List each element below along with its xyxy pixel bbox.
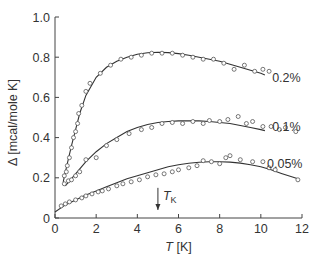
data-point	[77, 112, 81, 116]
data-point	[98, 71, 102, 75]
y-tick-label: 1.0	[33, 11, 50, 25]
tk-subscript: K	[171, 195, 177, 205]
data-point	[139, 128, 143, 132]
data-point	[127, 132, 131, 136]
data-point	[72, 136, 76, 140]
data-point	[251, 160, 255, 164]
series-label: 0.05%	[267, 157, 302, 171]
data-point	[146, 175, 150, 179]
data-point	[267, 69, 271, 73]
fit-curve-2	[65, 121, 265, 186]
chart: 00.20.40.60.81.0024681012T [K]Δ [mcal/mo…	[0, 0, 322, 259]
data-point	[170, 51, 174, 55]
data-point	[150, 126, 154, 130]
data-point	[80, 103, 84, 107]
data-point	[70, 178, 74, 182]
data-point	[107, 187, 111, 191]
data-point	[218, 162, 222, 166]
data-point	[160, 51, 164, 55]
data-point	[88, 81, 92, 85]
y-tick-label: 0	[43, 212, 50, 226]
data-point	[195, 164, 199, 168]
data-point	[64, 170, 68, 174]
data-point	[218, 120, 222, 124]
data-point	[170, 121, 174, 125]
data-point	[160, 122, 164, 126]
data-point	[94, 156, 98, 160]
data-point	[261, 125, 265, 129]
tk-annotation: TK	[163, 189, 177, 205]
data-point	[78, 170, 82, 174]
data-point	[76, 122, 80, 126]
data-point	[62, 182, 66, 186]
y-axis-title: Δ [mcal/mole K]	[6, 79, 20, 166]
data-point	[105, 144, 109, 148]
data-point	[177, 168, 181, 172]
data-point	[74, 198, 78, 202]
data-point	[251, 120, 255, 124]
data-point	[96, 190, 100, 194]
y-tick-label: 0.6	[33, 91, 50, 105]
data-point	[222, 61, 226, 65]
data-point	[162, 172, 166, 176]
data-point	[80, 196, 84, 200]
axes: 00.20.40.60.81.0024681012T [K]Δ [mcal/mo…	[6, 11, 309, 255]
data-point	[119, 57, 123, 61]
data-point	[84, 194, 88, 198]
data-point	[201, 57, 205, 61]
x-tick-label: 2	[93, 222, 100, 236]
data-point	[228, 154, 232, 158]
data-point	[238, 158, 242, 162]
labels: 0.2%0.1%0.05%TK	[155, 71, 302, 210]
data-point	[201, 122, 205, 126]
x-axis-title-unit: [K]	[173, 240, 192, 254]
data-point	[65, 164, 69, 168]
data-point	[90, 192, 94, 196]
data-point	[209, 160, 213, 164]
x-tick-label: 6	[175, 222, 182, 236]
data-point	[191, 120, 195, 124]
data-point	[70, 146, 74, 150]
y-tick-label: 0.2	[33, 171, 50, 185]
data-point	[181, 53, 185, 57]
data-point	[201, 159, 205, 163]
tk-arrow-head	[155, 204, 160, 210]
x-tick-label: 0	[52, 222, 59, 236]
data-point	[109, 63, 113, 67]
y-tick-label: 0.8	[33, 51, 50, 65]
data-point	[191, 55, 195, 59]
data-point	[242, 63, 246, 67]
x-tick-label: 10	[254, 222, 268, 236]
x-tick-label: 12	[295, 222, 309, 236]
series-label: 0.1%	[272, 120, 301, 134]
series-label: 0.2%	[272, 71, 301, 85]
data-point	[187, 166, 191, 170]
data-point	[129, 55, 133, 59]
data-point	[154, 173, 158, 177]
data-point	[170, 170, 174, 174]
data-point	[232, 67, 236, 71]
data-point	[115, 138, 119, 142]
data-point	[67, 156, 71, 160]
data-point	[261, 160, 265, 164]
data-point	[224, 156, 228, 160]
data-point	[115, 184, 119, 188]
y-tick-label: 0.4	[33, 131, 50, 145]
data-point	[137, 178, 141, 182]
data-point	[63, 202, 67, 206]
data-point	[296, 178, 300, 182]
data-point	[244, 122, 248, 126]
data-point	[84, 158, 88, 162]
data-point	[62, 174, 66, 178]
data-point	[212, 57, 216, 61]
data-point	[100, 189, 104, 193]
data-point	[181, 122, 185, 126]
data-point	[139, 53, 143, 57]
data-point	[207, 119, 211, 123]
fit-curves	[55, 52, 298, 212]
data-point	[74, 174, 78, 178]
x-tick-label: 4	[134, 222, 141, 236]
data-point	[84, 89, 88, 93]
data-point	[226, 118, 230, 122]
data-point	[59, 204, 63, 208]
